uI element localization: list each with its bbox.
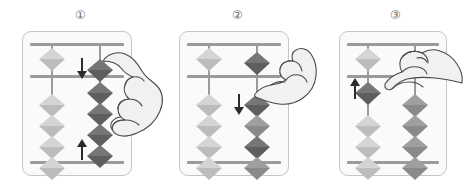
panel-step-2: ② xyxy=(157,0,317,191)
rod-right xyxy=(99,44,101,163)
arrow-down-icon xyxy=(233,94,245,116)
frame-top-bar xyxy=(30,43,124,46)
frame-top-bar xyxy=(187,43,281,46)
frame-top-bar xyxy=(347,43,439,46)
frame-bottom-bar xyxy=(187,161,281,164)
abacus-1 xyxy=(23,32,131,175)
frame-beam-bar xyxy=(187,75,281,78)
arrow-up-icon xyxy=(76,138,88,160)
rod-left xyxy=(208,44,210,163)
panel-step-3: ③ xyxy=(315,0,473,191)
step-number-1: ① xyxy=(0,8,160,22)
step-number-3: ③ xyxy=(315,8,473,22)
rod-right xyxy=(414,44,416,163)
arrow-down-icon xyxy=(76,58,88,80)
abacus-card-3 xyxy=(339,31,447,176)
arrow-up-icon xyxy=(349,77,361,99)
rod-left xyxy=(367,44,369,163)
frame-bottom-bar xyxy=(30,161,124,164)
panel-step-1: ① xyxy=(0,0,160,191)
step-number-2: ② xyxy=(157,8,317,22)
frame-bottom-bar xyxy=(347,161,439,164)
abacus-card-1 xyxy=(22,31,132,176)
rod-right xyxy=(256,44,258,163)
abacus-2 xyxy=(180,32,288,175)
abacus-3 xyxy=(340,32,446,175)
figure-canvas: ① xyxy=(0,0,473,191)
rod-left xyxy=(51,44,53,163)
abacus-card-2 xyxy=(179,31,289,176)
